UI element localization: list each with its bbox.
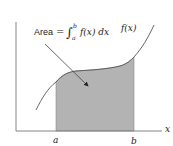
equals-sign: = bbox=[56, 26, 64, 37]
lower-limit: a bbox=[72, 34, 76, 41]
curve-label: f(x) bbox=[120, 23, 137, 33]
b-tick-label: b bbox=[131, 136, 137, 146]
integrand: f(x) dx bbox=[79, 27, 109, 37]
shaded-area bbox=[56, 57, 134, 131]
a-tick-label: a bbox=[53, 135, 58, 145]
upper-limit: b bbox=[73, 22, 77, 29]
area-label-prefix: Area bbox=[34, 27, 53, 37]
integral-diagram: Area = ∫ b a f(x) dx f(x) x a b bbox=[0, 0, 173, 146]
x-axis-label: x bbox=[165, 124, 170, 134]
